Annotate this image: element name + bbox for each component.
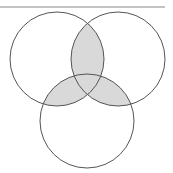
venn-diagram (0, 0, 173, 173)
shaded-overlaps (40, 12, 165, 168)
